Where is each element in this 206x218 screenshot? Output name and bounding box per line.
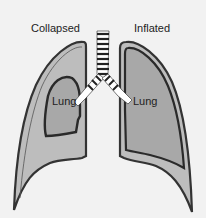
right-pleural-cavity (120, 42, 192, 212)
collapsed-label: Collapsed (31, 23, 80, 34)
lung-diagram: Collapsed Inflated Lung Lung (0, 0, 206, 218)
left-lung-label: Lung (52, 96, 76, 107)
trachea (97, 31, 109, 80)
inflated-label: Inflated (134, 23, 170, 34)
right-lung-label: Lung (133, 96, 157, 107)
